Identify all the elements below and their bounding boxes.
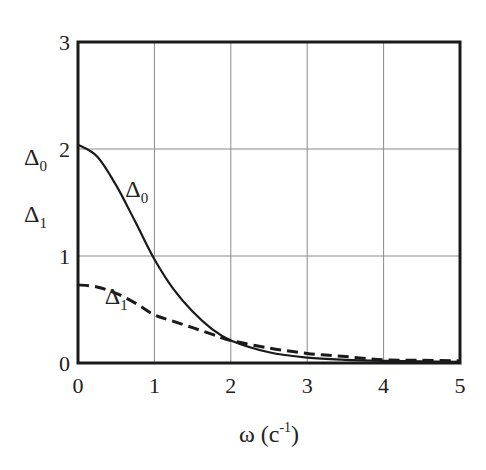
- curve-label-delta0: Δ0: [125, 176, 148, 206]
- y-tick-label: 3: [59, 30, 70, 55]
- x-tick-label: 2: [225, 373, 236, 398]
- series-line-delta1: [78, 285, 460, 361]
- line-chart: 012345 0123 Δ0Δ1 Δ0Δ1 ω (c-1): [0, 0, 486, 470]
- x-tick-label: 1: [149, 373, 160, 398]
- y-axis-title: Δ0Δ1: [24, 144, 47, 231]
- x-axis-ticks: 012345: [73, 373, 466, 398]
- x-tick-label: 4: [378, 373, 389, 398]
- x-tick-label: 0: [73, 373, 84, 398]
- y-tick-label: 1: [59, 244, 70, 269]
- y-tick-label: 2: [59, 137, 70, 162]
- y-axis-title-part: Δ1: [24, 201, 47, 231]
- grid-lines: [78, 42, 460, 363]
- plot-frame: [78, 42, 460, 363]
- x-axis-title-main: ω (c: [239, 421, 279, 447]
- x-axis-title-close: ): [291, 421, 299, 447]
- curve-label-delta1: Δ1: [105, 283, 128, 313]
- y-tick-label: 0: [59, 351, 70, 376]
- y-axis-ticks: 0123: [59, 30, 70, 376]
- x-tick-label: 5: [455, 373, 466, 398]
- y-axis-title-part: Δ0: [24, 144, 47, 174]
- x-tick-label: 3: [302, 373, 313, 398]
- x-axis-title: ω (c-1): [239, 420, 299, 447]
- x-axis-title-sup: -1: [279, 420, 291, 435]
- curve-labels: Δ0Δ1: [105, 176, 149, 313]
